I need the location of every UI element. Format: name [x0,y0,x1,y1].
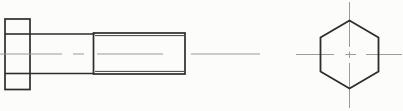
bolt-technical-drawing [0,0,403,111]
drawing-svg [0,0,403,111]
